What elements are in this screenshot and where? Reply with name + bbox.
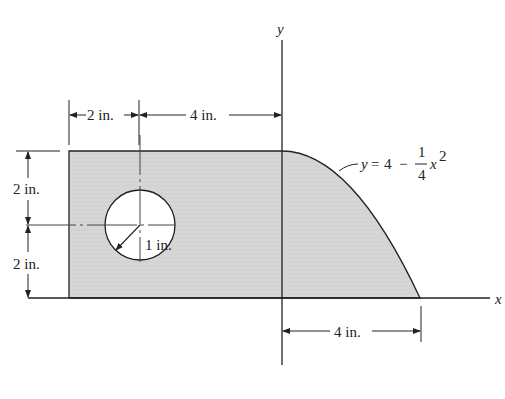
svg-text:−: −: [399, 156, 407, 172]
curve-equation: y = 4 − 1 4 x 2: [359, 144, 447, 183]
svg-text:y: y: [359, 156, 368, 172]
svg-text:=: =: [371, 156, 379, 172]
svg-text:1: 1: [418, 144, 426, 160]
dim-left-upper-label: 2 in.: [13, 181, 40, 197]
x-axis-label: x: [494, 291, 502, 307]
svg-text:x: x: [429, 156, 437, 172]
y-axis-label: y: [275, 21, 284, 37]
hole-radius-label: 1 in.: [145, 237, 172, 253]
dim-left-lower-label: 2 in.: [13, 256, 40, 272]
dim-top-right-label: 4 in.: [190, 107, 217, 123]
composite-area-diagram: 1 in. y x y = 4 − 1 4 x 2 2 in. 4 in. 2 …: [0, 0, 505, 399]
svg-text:2: 2: [439, 148, 447, 164]
equation-leader: [339, 164, 358, 171]
svg-text:4: 4: [418, 167, 426, 183]
svg-text:4: 4: [384, 156, 392, 172]
dim-top-left-label: 2 in.: [87, 107, 114, 123]
dim-bottom-right-label: 4 in.: [334, 324, 361, 340]
